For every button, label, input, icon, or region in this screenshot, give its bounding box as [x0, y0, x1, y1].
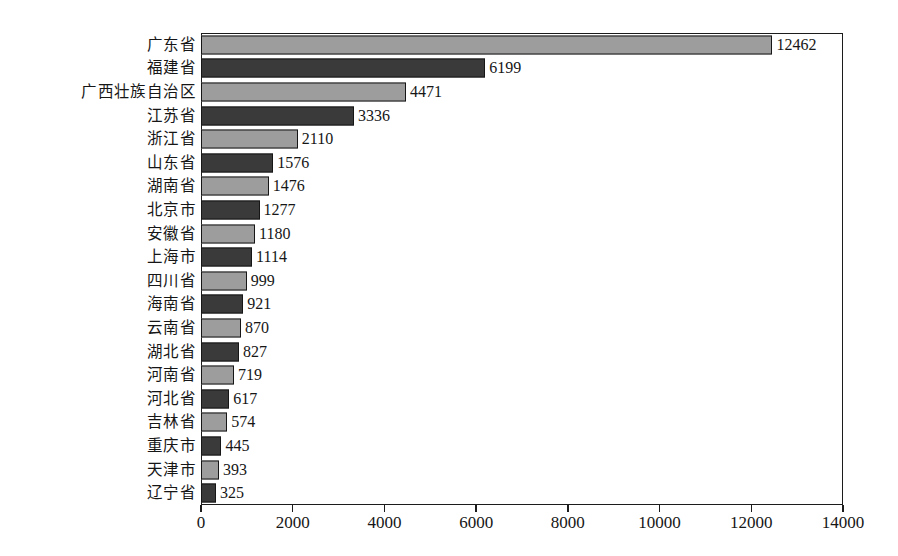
x-axis-tick: [292, 505, 293, 512]
x-axis-tick-label: 4000: [367, 514, 401, 531]
category-label: 湖南省: [147, 179, 196, 195]
category-label: 天津市: [147, 462, 196, 478]
category-label: 上海市: [147, 249, 196, 265]
x-axis-tick: [567, 505, 568, 512]
x-axis-tick-label: 14000: [822, 514, 865, 531]
x-axis-tick-label: 0: [197, 514, 206, 531]
bar[interactable]: [201, 224, 255, 243]
bar-row: 福建省6199: [0, 57, 898, 81]
bar-row: 广东省12462: [0, 33, 898, 57]
bar[interactable]: [201, 82, 406, 101]
category-label: 山东省: [147, 155, 196, 171]
bar[interactable]: [201, 59, 485, 78]
bar-value-label: 1114: [253, 249, 287, 265]
bar-wrapper: [201, 59, 485, 78]
bar-value-label: 1576: [274, 155, 309, 171]
x-axis-tick: [475, 505, 476, 512]
bar-value-label: 445: [222, 438, 249, 454]
x-axis-tick-label: 10000: [638, 514, 681, 531]
bar-value-label: 6199: [486, 60, 521, 76]
bar[interactable]: [201, 342, 239, 361]
bar[interactable]: [201, 436, 221, 455]
bar-wrapper: [201, 484, 216, 503]
bar[interactable]: [201, 106, 354, 125]
bar-row: 吉林省574: [0, 411, 898, 435]
category-label: 广西壮族自治区: [81, 84, 196, 100]
category-label: 江苏省: [147, 108, 196, 124]
bar[interactable]: [201, 35, 772, 54]
category-label: 辽宁省: [147, 485, 196, 501]
category-label: 四川省: [147, 273, 196, 289]
bar-value-label: 617: [230, 391, 257, 407]
bar-value-label: 921: [244, 296, 271, 312]
bar-value-label: 3336: [355, 108, 390, 124]
bar-value-label: 4471: [407, 84, 442, 100]
bar-value-label: 1277: [261, 202, 296, 218]
bar[interactable]: [201, 271, 247, 290]
category-label: 湖北省: [147, 344, 196, 360]
bar-wrapper: [201, 460, 219, 479]
x-axis-tick: [200, 505, 201, 512]
category-label: 广东省: [147, 37, 196, 53]
bar-row: 河北省617: [0, 387, 898, 411]
bar[interactable]: [201, 318, 241, 337]
x-axis-tick: [842, 505, 843, 512]
bar-value-label: 325: [217, 485, 244, 501]
bar[interactable]: [201, 248, 252, 267]
bar-wrapper: [201, 224, 255, 243]
category-label: 云南省: [147, 320, 196, 336]
bar-value-label: 393: [220, 462, 247, 478]
bar-row: 云南省870: [0, 316, 898, 340]
bar[interactable]: [201, 484, 216, 503]
bar[interactable]: [201, 295, 243, 314]
bar-value-label: 12462: [773, 37, 816, 53]
bar-wrapper: [201, 35, 772, 54]
bar[interactable]: [201, 130, 298, 149]
x-axis-tick-label: 6000: [459, 514, 493, 531]
bar-row: 广西壮族自治区4471: [0, 80, 898, 104]
x-axis-tick: [384, 505, 385, 512]
category-label: 海南省: [147, 297, 196, 313]
x-axis-tick-label: 12000: [730, 514, 773, 531]
bar-row: 上海市1114: [0, 245, 898, 269]
x-axis-tick: [751, 505, 752, 512]
category-label: 重庆市: [147, 438, 196, 454]
bar-row: 安徽省1180: [0, 222, 898, 246]
bar-row: 海南省921: [0, 293, 898, 317]
bar-value-label: 2110: [299, 131, 333, 147]
bar-row: 河南省719: [0, 363, 898, 387]
bar-value-label: 827: [240, 344, 267, 360]
x-axis: 02000400060008000100001200014000: [0, 505, 898, 556]
bar-wrapper: [201, 200, 260, 219]
bar-wrapper: [201, 82, 406, 101]
bar-value-label: 1180: [256, 226, 290, 242]
bar-wrapper: [201, 318, 241, 337]
bar-value-label: 574: [228, 414, 255, 430]
bar-wrapper: [201, 413, 227, 432]
bar[interactable]: [201, 200, 260, 219]
x-axis-tick-label: 2000: [276, 514, 310, 531]
bar-value-label: 999: [248, 273, 275, 289]
bar-row: 四川省999: [0, 269, 898, 293]
bar-rows-container: 广东省12462福建省6199广西壮族自治区4471江苏省3336浙江省2110…: [0, 33, 898, 505]
bar-row: 山东省1576: [0, 151, 898, 175]
bar-row: 湖北省827: [0, 340, 898, 364]
bar-chart: 广东省12462福建省6199广西壮族自治区4471江苏省3336浙江省2110…: [0, 0, 898, 556]
bar[interactable]: [201, 153, 273, 172]
bar-row: 江苏省3336: [0, 104, 898, 128]
bar[interactable]: [201, 389, 229, 408]
bar-wrapper: [201, 177, 269, 196]
category-label: 安徽省: [147, 226, 196, 242]
bar[interactable]: [201, 366, 234, 385]
bar-wrapper: [201, 248, 252, 267]
bar-value-label: 1476: [270, 178, 305, 194]
bar-wrapper: [201, 342, 239, 361]
category-label: 河南省: [147, 367, 196, 383]
category-label: 河北省: [147, 391, 196, 407]
bar[interactable]: [201, 413, 227, 432]
bar-wrapper: [201, 389, 229, 408]
bar-wrapper: [201, 366, 234, 385]
bar[interactable]: [201, 177, 269, 196]
bar[interactable]: [201, 460, 219, 479]
bar-row: 北京市1277: [0, 198, 898, 222]
